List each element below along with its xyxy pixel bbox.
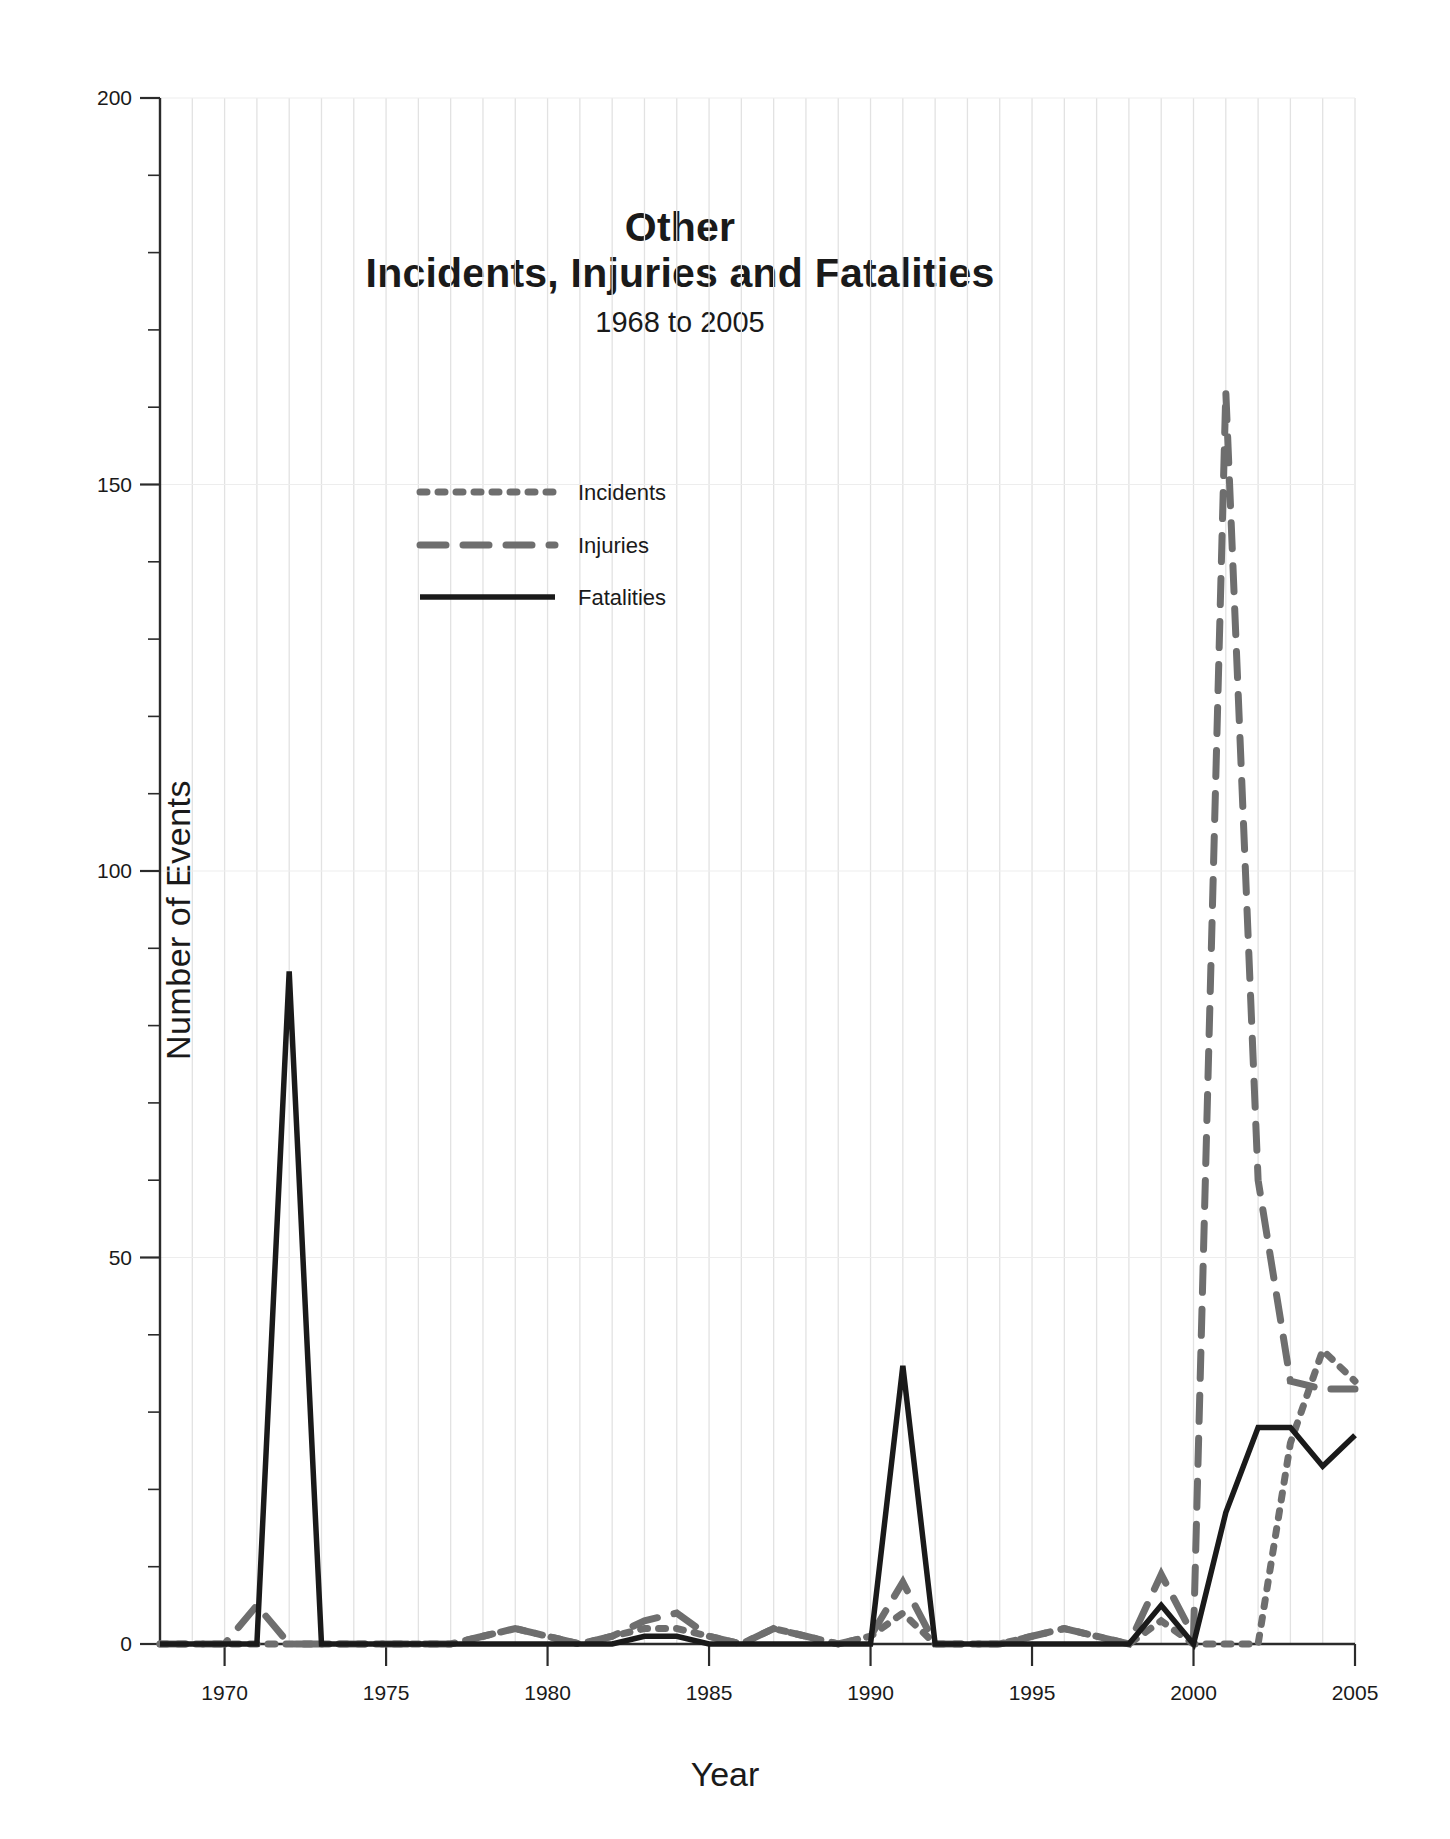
x-tick-label: 1990: [847, 1681, 894, 1704]
x-tick-label: 1975: [363, 1681, 410, 1704]
x-tick-label: 1970: [201, 1681, 248, 1704]
y-tick-label: 150: [97, 473, 132, 496]
chart-figure: Other Incidents, Injuries and Fatalities…: [0, 0, 1450, 1839]
series-line-injuries: [160, 392, 1355, 1644]
y-axis-ticks: 050100150200: [97, 86, 160, 1655]
y-tick-label: 50: [109, 1246, 132, 1269]
y-tick-label: 0: [120, 1632, 132, 1655]
x-tick-label: 1980: [524, 1681, 571, 1704]
data-series-group: [160, 392, 1355, 1644]
x-tick-label: 1985: [686, 1681, 733, 1704]
series-line-fatalities: [160, 971, 1355, 1644]
legend-label-incidents: Incidents: [578, 480, 666, 505]
plot-area-wrapper: 050100150200 197019751980198519901995200…: [0, 0, 1450, 1839]
x-tick-label: 2005: [1332, 1681, 1379, 1704]
y-tick-label: 100: [97, 859, 132, 882]
legend-label-injuries: Injuries: [578, 533, 649, 558]
chart-legend: IncidentsInjuriesFatalities: [420, 480, 666, 610]
y-tick-label: 200: [97, 86, 132, 109]
chart-canvas: 050100150200 197019751980198519901995200…: [0, 0, 1450, 1839]
x-tick-label: 2000: [1170, 1681, 1217, 1704]
x-axis-ticks: 19701975198019851990199520002005: [201, 1644, 1378, 1704]
x-tick-label: 1995: [1009, 1681, 1056, 1704]
legend-label-fatalities: Fatalities: [578, 585, 666, 610]
horizontal-gridlines: [160, 98, 1355, 1258]
